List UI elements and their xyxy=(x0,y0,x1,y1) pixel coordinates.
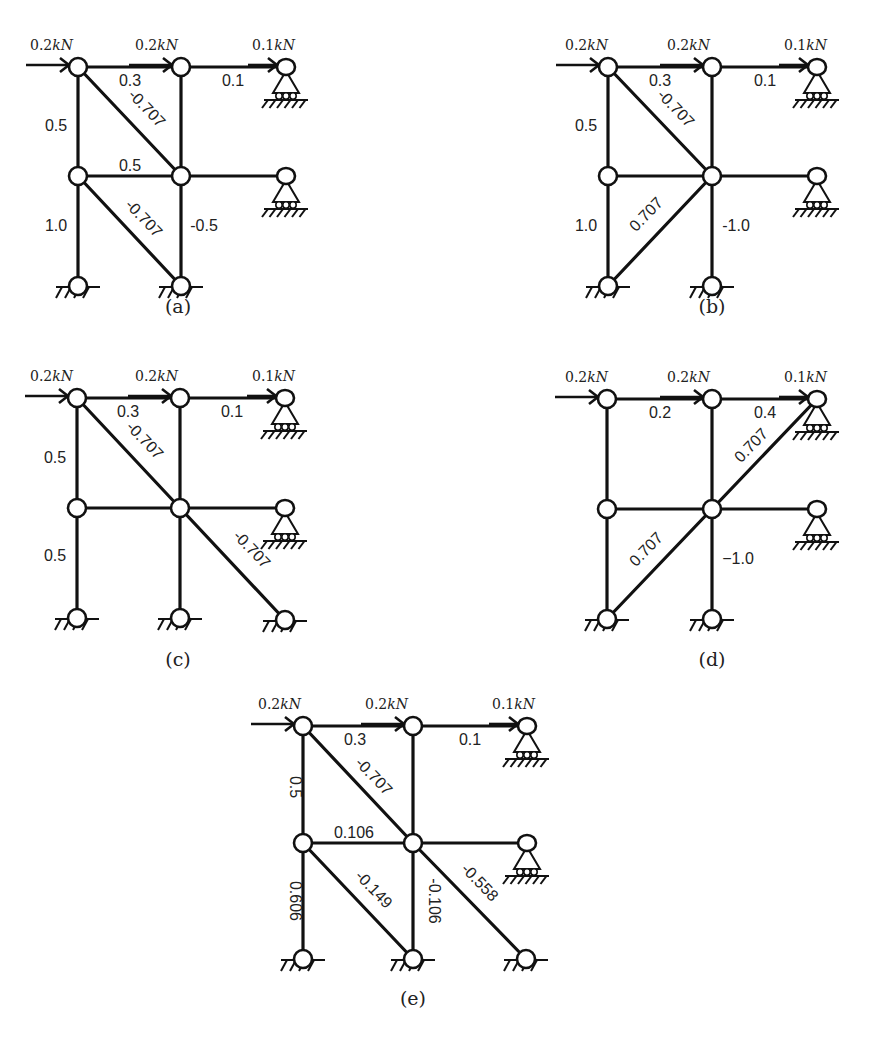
load-label: 0.1kN xyxy=(252,37,296,53)
ground-hatch xyxy=(808,432,814,440)
ground-hatch xyxy=(585,620,591,631)
roller-wheel xyxy=(821,425,827,431)
load-label: 0.2kN xyxy=(565,369,609,385)
roller-wheel xyxy=(289,424,295,430)
roller-wheel xyxy=(821,202,827,208)
member-force-label: -1.0 xyxy=(722,217,750,234)
roller-wheel xyxy=(807,202,813,208)
truss-node xyxy=(404,950,422,968)
load-label: 0.2kN xyxy=(365,696,409,712)
ground-hatch xyxy=(269,541,275,549)
member-force-label: 0.707 xyxy=(731,425,771,466)
load-label: 0.2kN xyxy=(667,37,711,53)
load-label: 0.1kN xyxy=(784,369,828,385)
load-label: 0.1kN xyxy=(492,696,536,712)
ground-hatch xyxy=(276,541,282,549)
member-force-label: 0.606 xyxy=(287,881,304,921)
truss-node xyxy=(294,834,312,852)
truss-node xyxy=(404,834,422,852)
ground-hatch xyxy=(831,100,837,108)
ground-hatch xyxy=(801,100,807,108)
ground-hatch xyxy=(831,432,837,440)
ground-hatch xyxy=(808,100,814,108)
ground-hatch xyxy=(300,209,306,217)
roller-wheel xyxy=(517,752,523,758)
ground-hatch xyxy=(526,759,532,767)
member-force-label: 0.5 xyxy=(44,449,66,466)
roller-wheel xyxy=(276,202,282,208)
ground-hatch xyxy=(158,619,164,630)
load-label: 0.1kN xyxy=(252,368,296,384)
member-force-label: 0.1 xyxy=(459,731,481,748)
roller-wheel xyxy=(814,202,820,208)
ground-hatch xyxy=(291,431,297,439)
roller-wheel xyxy=(524,869,530,875)
ground-hatch xyxy=(801,432,807,440)
truss-node xyxy=(171,499,189,517)
truss-node xyxy=(171,389,189,407)
ground-hatch xyxy=(816,432,822,440)
ground-hatch xyxy=(823,432,829,440)
support-pin xyxy=(808,168,826,184)
roller-wheel xyxy=(282,534,288,540)
roller-wheel xyxy=(807,93,813,99)
support-pin xyxy=(277,59,295,75)
truss-node xyxy=(598,390,616,408)
ground-hatch xyxy=(277,209,283,217)
ground-hatch xyxy=(261,431,267,439)
panel-caption: (a) xyxy=(165,295,191,317)
ground-hatch xyxy=(541,759,547,767)
member-force-label: 0.1 xyxy=(754,72,776,89)
member-force-label: 0.5 xyxy=(45,117,67,134)
truss-node xyxy=(172,277,190,295)
ground-hatch xyxy=(503,876,509,884)
ground-hatch xyxy=(793,209,799,217)
truss-node xyxy=(294,950,312,968)
ground-hatch xyxy=(276,431,282,439)
ground-hatch xyxy=(816,542,822,550)
member-force-label: 0.3 xyxy=(344,731,366,748)
panel-caption: (b) xyxy=(699,295,726,317)
ground-hatch xyxy=(262,209,268,217)
member-force-label: -0.707 xyxy=(230,527,274,572)
ground-hatch xyxy=(270,209,276,217)
roller-wheel xyxy=(821,93,827,99)
roller-wheel xyxy=(524,752,530,758)
roller-wheel xyxy=(807,535,813,541)
roller-wheel xyxy=(531,869,537,875)
ground-hatch xyxy=(690,287,696,298)
ground-hatch xyxy=(690,620,696,631)
roller-wheel xyxy=(814,93,820,99)
ground-hatch xyxy=(586,287,592,298)
truss-node xyxy=(276,611,294,629)
ground-hatch xyxy=(504,960,510,971)
truss-panel-a: 0.2kN0.2kN0.1kN0.30.10.5-0.7070.51.0-0.7… xyxy=(26,37,308,317)
support-pin xyxy=(276,390,294,406)
ground-hatch xyxy=(270,100,276,108)
panel-caption: (e) xyxy=(400,987,426,1009)
roller-wheel xyxy=(275,534,281,540)
truss-node xyxy=(703,277,721,295)
truss-node xyxy=(598,500,616,518)
ground-hatch xyxy=(262,100,268,108)
member-force-label: 0.707 xyxy=(626,194,666,235)
ground-hatch xyxy=(511,876,517,884)
support-pin xyxy=(808,391,826,407)
truss-node xyxy=(599,277,617,295)
member-force-label: 1.0 xyxy=(45,217,67,234)
roller-wheel xyxy=(289,534,295,540)
member-force-label: 1.0 xyxy=(575,217,597,234)
roller-wheel xyxy=(290,202,296,208)
member-force-label: 0.1 xyxy=(222,72,244,89)
truss-node xyxy=(703,390,721,408)
ground-hatch xyxy=(808,542,814,550)
ground-hatch xyxy=(541,876,547,884)
member-force-label: 0.5 xyxy=(575,117,597,134)
truss-panel-d: 0.2kN0.2kN0.1kN0.20.40.7070.707−1.0(d) xyxy=(555,369,839,670)
member-force-label: -0.707 xyxy=(352,754,396,799)
truss-node xyxy=(294,717,312,735)
truss-node xyxy=(599,58,617,76)
roller-wheel xyxy=(283,93,289,99)
ground-hatch xyxy=(263,621,269,632)
truss-node xyxy=(69,277,87,295)
